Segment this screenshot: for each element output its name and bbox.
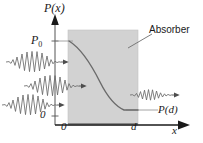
- incoming-wave-top: [6, 51, 63, 71]
- origin-label: 0: [61, 120, 67, 132]
- x-tick-label-d: d: [131, 120, 137, 132]
- transmitted-power-label: P(d): [158, 103, 178, 115]
- absorption-diagram: P(x) P0 0 0 d x P(d) Absorber: [0, 0, 203, 143]
- diagram-canvas: [0, 0, 203, 143]
- y-tick-label-p0: P0: [31, 33, 42, 49]
- transmitted-power-label-text: P(d): [158, 103, 178, 115]
- absorber-region: [68, 30, 138, 125]
- absorber-label: Absorber: [149, 24, 190, 35]
- y-tick-label-zero-text: 0: [40, 108, 46, 120]
- absorber-label-text: Absorber: [149, 24, 190, 35]
- x-axis-label: x: [172, 124, 177, 136]
- x-tick-label-d-text: d: [131, 120, 137, 132]
- y-tick-label-p0-subscript: 0: [38, 40, 42, 49]
- x-axis-arrowhead: [178, 121, 190, 130]
- y-axis-label: P(x): [44, 1, 65, 16]
- x-axis-label-text: x: [172, 124, 177, 136]
- origin-label-text: 0: [61, 120, 67, 132]
- incoming-wave-bottom: [2, 94, 59, 114]
- y-tick-label-zero: 0: [40, 108, 46, 120]
- y-axis-label-text: P(x): [44, 1, 65, 15]
